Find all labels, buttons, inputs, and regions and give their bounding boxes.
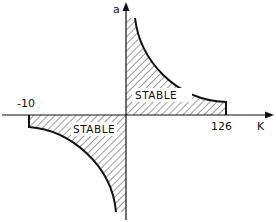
stability-region-diagram: STABLE STABLE a K -10 126 [0,0,276,222]
k-axis-label: K [257,120,265,133]
stable-region-upper-right: STABLE [126,18,226,115]
a-axis-label: a [113,3,120,16]
stable-label-lower: STABLE [73,123,115,135]
tick-label-neg10: -10 [17,97,35,110]
stable-region-lower-left: STABLE [29,115,126,212]
stable-label-upper: STABLE [135,89,177,101]
tick-label-126: 126 [211,120,232,133]
k-axis-arrow-icon [265,112,274,119]
a-axis-arrow-icon [123,2,130,11]
